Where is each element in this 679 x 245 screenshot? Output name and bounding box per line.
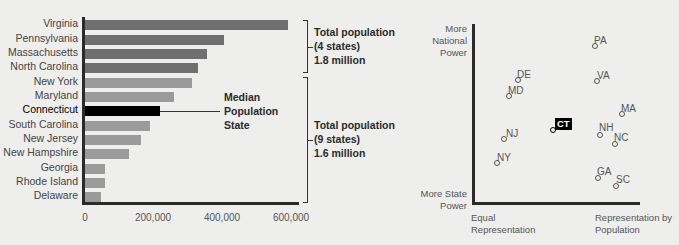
point-label-md: MD: [508, 85, 524, 96]
median-line-3: State: [224, 118, 278, 132]
median-annotation: Median Population State: [224, 90, 278, 132]
scatter-chart: More National Power More State Power Equ…: [420, 0, 679, 245]
scatter-y-axis: [472, 24, 475, 204]
bar-new-jersey: [85, 135, 141, 145]
y-axis-top-label: More National Power: [420, 23, 467, 59]
bar-south-carolina: [85, 121, 150, 131]
bar-maryland: [85, 92, 174, 102]
y-bottom-line-1: More State: [421, 188, 467, 200]
x-right-line-1: Representation by: [595, 212, 672, 224]
tick-200000: 200,000: [135, 212, 171, 223]
point-label-ma: MA: [621, 103, 636, 114]
bottom-anno-line-3: 1.6 million: [314, 146, 395, 160]
label-south-carolina: South Carolina: [9, 118, 78, 130]
median-line-1: Median: [224, 90, 278, 104]
top-group-bracket: [303, 20, 308, 73]
label-pennsylvania: Pennsylvania: [16, 32, 78, 44]
tick-0: 0: [82, 212, 88, 223]
label-maryland: Maryland: [35, 89, 78, 101]
bar-connecticut: [85, 106, 160, 116]
top-anno-line-1: Total population: [314, 25, 395, 39]
y-top-line-2: Power: [420, 47, 467, 59]
point-label-nc: NC: [614, 132, 628, 143]
bar-new-hampshire: [85, 149, 129, 159]
point-label-ga: GA: [597, 166, 611, 177]
x-axis-line: [82, 202, 299, 205]
x-left-line-1: Equal: [471, 212, 535, 224]
scatter-x-axis: [472, 202, 640, 205]
label-rhode-island: Rhode Island: [16, 175, 78, 187]
point-label-nh: NH: [599, 122, 613, 133]
tick-400000: 400,000: [204, 212, 240, 223]
bar-delaware: [85, 192, 101, 202]
y-axis-bottom-label: More State Power: [421, 188, 467, 212]
top-group-annotation: Total population (4 states) 1.8 million: [314, 25, 395, 67]
label-connecticut: Connecticut: [23, 103, 78, 115]
point-label-ct: CT: [555, 118, 572, 130]
top-anno-line-3: 1.8 million: [314, 53, 395, 67]
bar-georgia: [85, 164, 105, 174]
bottom-anno-line-2: (9 states): [314, 132, 395, 146]
label-new-york: New York: [34, 75, 78, 87]
bar-new-york: [85, 78, 192, 88]
point-label-pa: PA: [594, 35, 607, 46]
label-new-hampshire: New Hampshire: [3, 146, 78, 158]
bar-north-carolina: [85, 63, 198, 73]
bottom-anno-line-1: Total population: [314, 118, 395, 132]
point-label-sc: SC: [616, 174, 630, 185]
bar-massachusetts: [85, 49, 207, 59]
label-north-carolina: North Carolina: [10, 60, 78, 72]
category-labels: Virginia Pennsylvania Massachusetts Nort…: [0, 0, 78, 245]
bar-pennsylvania: [85, 35, 224, 45]
y-top-line-1: More National: [420, 23, 467, 47]
x-axis-left-label: Equal Representation: [471, 212, 535, 236]
bottom-group-annotation: Total population (9 states) 1.6 million: [314, 118, 395, 160]
x-left-line-2: Representation: [471, 224, 535, 236]
point-label-nj: NJ: [506, 128, 518, 139]
tick-600000: 600,000: [273, 212, 309, 223]
bottom-group-bracket: [303, 77, 308, 203]
x-right-line-2: Population: [595, 224, 672, 236]
label-massachusetts: Massachusetts: [8, 46, 78, 58]
top-anno-line-2: (4 states): [314, 39, 395, 53]
label-virginia: Virginia: [43, 17, 78, 29]
y-bottom-line-2: Power: [421, 200, 467, 212]
median-leader-line: [160, 111, 220, 112]
bar-virginia: [85, 20, 288, 30]
point-label-ny: NY: [497, 152, 511, 163]
point-label-de: DE: [517, 69, 531, 80]
point-label-va: VA: [597, 70, 610, 81]
x-axis-right-label: Representation by Population: [595, 212, 672, 236]
bar-chart: Virginia Pennsylvania Massachusetts Nort…: [0, 0, 420, 245]
label-delaware: Delaware: [34, 189, 78, 201]
label-new-jersey: New Jersey: [23, 132, 78, 144]
median-line-2: Population: [224, 104, 278, 118]
label-georgia: Georgia: [41, 161, 78, 173]
bar-rhode-island: [85, 178, 105, 188]
